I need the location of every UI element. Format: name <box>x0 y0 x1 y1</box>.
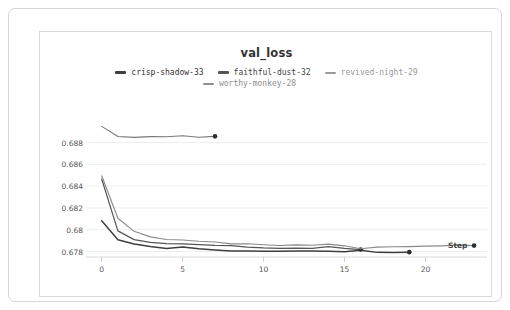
y-axis-tick-label: 0.68 <box>40 225 83 234</box>
chart-panel: val_loss crisp-shadow-33 faithful-dust-3… <box>39 31 492 297</box>
plot-area: 0.6880.6860.6840.6820.680.678 05101520 S… <box>40 32 493 298</box>
series-line-faithful-dust-32[interactable] <box>102 179 361 249</box>
y-axis-tick-label: 0.682 <box>40 203 83 212</box>
series-endpoint-marker-crisp-shadow-33[interactable] <box>407 250 412 255</box>
outer-card-frame: val_loss crisp-shadow-33 faithful-dust-3… <box>8 8 502 302</box>
x-axis-tick-label: 0 <box>99 265 104 274</box>
y-axis-tick-label: 0.678 <box>40 247 83 256</box>
series-endpoint-marker-worthy-monkey-28[interactable] <box>213 134 218 139</box>
series-line-worthy-monkey-28[interactable] <box>102 126 215 137</box>
y-axis-tick-label: 0.688 <box>40 138 83 147</box>
chart-plot-svg <box>40 32 493 298</box>
x-axis-tick-label: 5 <box>180 265 185 274</box>
series-endpoint-marker-revived-night-29[interactable] <box>472 243 477 248</box>
x-axis-tick-label: 10 <box>259 265 269 274</box>
y-axis-tick-label: 0.686 <box>40 160 83 169</box>
chart-screenshot-root: val_loss crisp-shadow-33 faithful-dust-3… <box>0 0 510 310</box>
x-axis-tick-label: 15 <box>340 265 350 274</box>
x-axis-tick-label: 20 <box>421 265 431 274</box>
y-axis-tick-label: 0.684 <box>40 182 83 191</box>
series-line-revived-night-29[interactable] <box>102 176 474 249</box>
x-axis-title: Step <box>448 241 467 250</box>
